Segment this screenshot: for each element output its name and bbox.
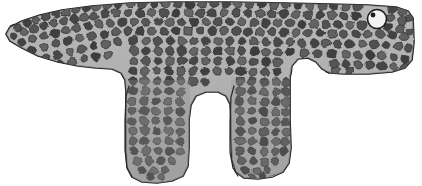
- spot: [90, 41, 97, 49]
- spot: [177, 67, 185, 76]
- spot: [214, 57, 222, 65]
- spot: [142, 18, 150, 26]
- spot: [391, 54, 398, 61]
- spot: [214, 47, 222, 55]
- spot: [184, 9, 193, 18]
- spot: [130, 58, 137, 65]
- spot: [201, 37, 210, 45]
- spot: [29, 35, 37, 42]
- spot: [220, 27, 228, 35]
- spot: [249, 68, 257, 76]
- spot: [118, 18, 127, 27]
- spot: [313, 50, 322, 58]
- spot: [197, 27, 204, 34]
- spot: [154, 18, 163, 25]
- spot: [327, 49, 337, 58]
- belly-shading: [126, 80, 190, 186]
- spot: [160, 9, 170, 18]
- eye-sclera: [368, 10, 387, 29]
- spot: [388, 31, 397, 39]
- eye: [368, 10, 387, 29]
- spot: [249, 58, 258, 65]
- spot: [128, 36, 137, 45]
- spot: [237, 57, 246, 65]
- spot: [262, 57, 271, 66]
- spot: [322, 20, 330, 28]
- eye-pupil: [371, 13, 376, 18]
- spot: [101, 10, 110, 19]
- spotted-animal-illustration: [0, 0, 422, 186]
- belly-shading-secondary: [231, 80, 292, 186]
- spot: [184, 27, 193, 35]
- spot: [50, 29, 60, 38]
- spot: [124, 10, 132, 17]
- spot: [166, 57, 175, 66]
- spot: [100, 31, 108, 39]
- spot: [267, 10, 276, 18]
- spot: [327, 30, 338, 39]
- spot: [342, 50, 350, 58]
- illustration-canvas: Spotted quadruped animal illustration le…: [0, 0, 422, 186]
